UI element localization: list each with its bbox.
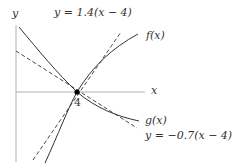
tick-label-4: 4 (74, 97, 81, 108)
curve-f (45, 34, 138, 163)
curve-label-g: g(x) (145, 115, 167, 126)
curve-label-f: f(x) (146, 30, 165, 41)
tangent-label-g: y = −0.7(x − 4) (145, 130, 232, 141)
intersection-point (74, 89, 79, 94)
y-axis-label: y (12, 8, 18, 19)
tangent-label-f: y = 1.4(x − 4) (54, 7, 132, 18)
diagram-canvas: y x 4 y = 1.4(x − 4) f(x) g(x) y = −0.7(… (0, 0, 240, 167)
x-axis-label: x (151, 85, 157, 96)
